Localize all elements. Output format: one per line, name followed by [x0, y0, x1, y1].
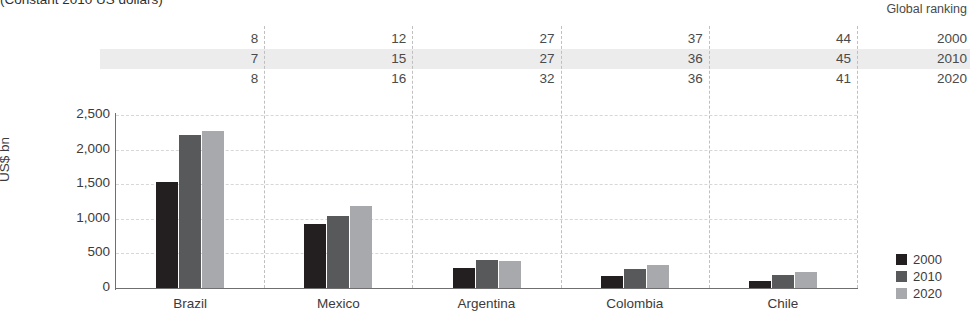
- y-axis-tick-label: 500: [42, 244, 110, 259]
- y-axis-tick-label: 1,500: [42, 175, 110, 190]
- ranking-cell: 12: [332, 29, 406, 49]
- plot-area: [116, 115, 857, 288]
- bar: [624, 269, 646, 288]
- x-axis-label: Brazil: [116, 296, 264, 311]
- ranking-cell: 36: [629, 49, 703, 69]
- ranking-cell: 27: [481, 29, 555, 49]
- ranking-cell: 8: [184, 69, 258, 89]
- x-axis-line: [115, 288, 858, 289]
- bar: [476, 260, 498, 288]
- y-axis-tick-label: 2,500: [42, 106, 110, 121]
- x-axis-label: Chile: [709, 296, 857, 311]
- ranking-row-year: 2010: [907, 49, 967, 69]
- bar: [350, 206, 372, 288]
- ranking-row-year: 2000: [907, 29, 967, 49]
- gridline: [116, 150, 857, 151]
- gridline: [116, 115, 857, 116]
- bar: [156, 182, 178, 288]
- bar: [327, 216, 349, 288]
- chart-subtitle: (Constant 2010 US dollars): [0, 0, 163, 7]
- gridline: [116, 219, 857, 220]
- y-axis-tick-label: 1,000: [42, 210, 110, 225]
- legend-label: 2020: [913, 286, 942, 301]
- y-axis-title: US$ bn: [0, 137, 12, 182]
- bar: [749, 281, 771, 288]
- y-axis-tick-label: 0: [42, 279, 110, 294]
- group-divider: [857, 26, 858, 288]
- gridline: [116, 184, 857, 185]
- x-axis-label: Mexico: [264, 296, 412, 311]
- bar: [795, 272, 817, 288]
- ranking-row: 8122737442000: [100, 29, 970, 49]
- ranking-row-year: 2020: [907, 69, 967, 89]
- y-axis-tick-label: 2,000: [42, 141, 110, 156]
- bar: [772, 275, 794, 288]
- legend-label: 2000: [913, 252, 942, 267]
- legend-label: 2010: [913, 269, 942, 284]
- ranking-cell: 32: [481, 69, 555, 89]
- bar: [304, 224, 326, 288]
- gridline: [116, 253, 857, 254]
- ranking-cell: 15: [332, 49, 406, 69]
- x-axis-label: Argentina: [412, 296, 560, 311]
- legend: 200020102020: [896, 252, 942, 303]
- ranking-cell: 36: [629, 69, 703, 89]
- ranking-row: 7152736452010: [100, 49, 970, 69]
- bar: [601, 276, 623, 288]
- legend-item[interactable]: 2020: [896, 286, 942, 301]
- bar: [179, 135, 201, 288]
- bar: [202, 131, 224, 288]
- x-axis-label: Colombia: [561, 296, 709, 311]
- ranking-cell: 37: [629, 29, 703, 49]
- global-ranking-header: Global ranking: [886, 2, 967, 16]
- ranking-cell: 41: [777, 69, 851, 89]
- ranking-cell: 7: [184, 49, 258, 69]
- chart-root: (Constant 2010 US dollars) Global rankin…: [0, 0, 970, 330]
- legend-item[interactable]: 2010: [896, 269, 942, 284]
- ranking-cell: 16: [332, 69, 406, 89]
- ranking-cell: 44: [777, 29, 851, 49]
- ranking-row: 8163236412020: [100, 69, 970, 89]
- legend-swatch-icon: [896, 288, 907, 299]
- legend-item[interactable]: 2000: [896, 252, 942, 267]
- bar: [453, 268, 475, 288]
- ranking-cell: 8: [184, 29, 258, 49]
- bar: [499, 261, 521, 288]
- legend-swatch-icon: [896, 254, 907, 265]
- ranking-cell: 45: [777, 49, 851, 69]
- ranking-cell: 27: [481, 49, 555, 69]
- legend-swatch-icon: [896, 271, 907, 282]
- bar: [647, 265, 669, 288]
